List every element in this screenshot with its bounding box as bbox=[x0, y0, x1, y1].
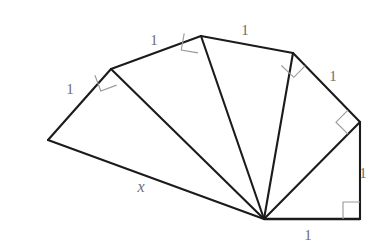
spoke-hypotenuse-6 bbox=[48, 140, 264, 219]
spoke-hypotenuse-4 bbox=[201, 36, 264, 219]
label-right-vertical-length: 1 bbox=[359, 166, 367, 181]
label-top-left-length: 1 bbox=[150, 33, 158, 48]
edge-unit-left bbox=[48, 69, 111, 140]
label-left-length: 1 bbox=[66, 82, 74, 97]
label-top-right-length: 1 bbox=[241, 23, 249, 38]
edge-unit-top-right bbox=[201, 36, 293, 53]
spoke-hypotenuse-5 bbox=[111, 69, 264, 219]
right-angle-upper-left-icon bbox=[95, 75, 117, 91]
label-x-hypotenuse: x bbox=[137, 179, 144, 195]
label-upper-right-length: 1 bbox=[329, 69, 337, 84]
edge-unit-upper-right bbox=[293, 53, 360, 122]
right-angle-corner-icon bbox=[343, 202, 360, 219]
geometry-figure: 1 1 1 1 1 1 x bbox=[0, 0, 376, 248]
right-angle-upper-right-icon bbox=[281, 66, 305, 78]
figure-canvas bbox=[0, 0, 376, 248]
label-base-length: 1 bbox=[304, 228, 312, 243]
right-angle-right-icon bbox=[336, 110, 348, 134]
